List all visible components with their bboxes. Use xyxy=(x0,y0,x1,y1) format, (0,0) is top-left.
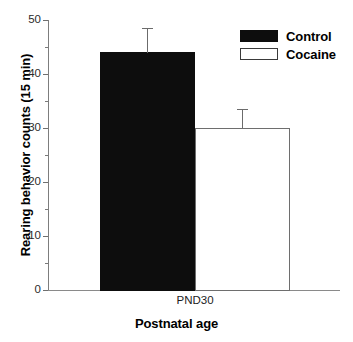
chart-legend: Control Cocaine xyxy=(240,28,348,64)
error-bar-cocaine-pnd30 xyxy=(195,109,290,128)
chart-figure: Rearing behavior counts (15 min) 50 40 3… xyxy=(0,0,353,342)
y-tick-label-20: 20 xyxy=(28,176,41,188)
legend-label-control: Control xyxy=(286,29,332,44)
legend-swatch-cocaine xyxy=(240,48,278,60)
y-tick-label-40: 40 xyxy=(28,68,41,80)
y-tick-label-50: 50 xyxy=(28,14,41,26)
bar-control-pnd30 xyxy=(100,52,195,291)
legend-item-cocaine: Cocaine xyxy=(240,46,348,62)
y-tick-label-0: 0 xyxy=(35,284,41,296)
x-axis-title: Postnatal age xyxy=(0,316,353,331)
bar-cocaine-pnd30 xyxy=(195,128,290,291)
y-axis-line xyxy=(48,20,49,291)
y-tick-label-10: 10 xyxy=(28,230,41,242)
x-tick-label-pnd30: PND30 xyxy=(176,294,213,306)
y-axis-title: Rearing behavior counts (15 min) xyxy=(14,10,36,300)
legend-item-control: Control xyxy=(240,28,348,44)
error-bar-control-pnd30 xyxy=(100,28,195,53)
y-tick-label-30: 30 xyxy=(28,122,41,134)
legend-swatch-control xyxy=(240,30,278,42)
legend-label-cocaine: Cocaine xyxy=(286,47,336,62)
